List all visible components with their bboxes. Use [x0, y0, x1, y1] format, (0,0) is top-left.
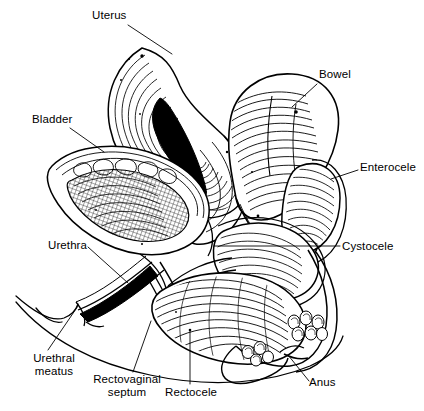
label-rectovaginal-septum-line2: septum	[88, 386, 166, 399]
label-anus: Anus	[309, 376, 336, 389]
label-bladder: Bladder	[32, 113, 72, 126]
label-bowel: Bowel	[319, 68, 351, 81]
label-urethral-meatus-line2: meatus	[17, 365, 91, 378]
label-urethral-meatus-line1: Urethral	[17, 352, 91, 365]
label-urethra: Urethra	[48, 239, 87, 252]
label-rectovaginal-septum: Rectovaginal septum	[88, 373, 166, 399]
label-rectocele: Rectocele	[165, 386, 217, 399]
pelvic-prolapse-figure: Uterus Bowel Bladder Enterocele Urethra …	[0, 0, 424, 411]
label-enterocele: Enterocele	[360, 161, 416, 174]
anatomical-illustration	[0, 0, 424, 411]
label-rectovaginal-septum-line1: Rectovaginal	[88, 373, 166, 386]
label-uterus: Uterus	[92, 9, 126, 22]
label-cystocele: Cystocele	[342, 240, 393, 253]
label-urethral-meatus: Urethral meatus	[17, 352, 91, 378]
